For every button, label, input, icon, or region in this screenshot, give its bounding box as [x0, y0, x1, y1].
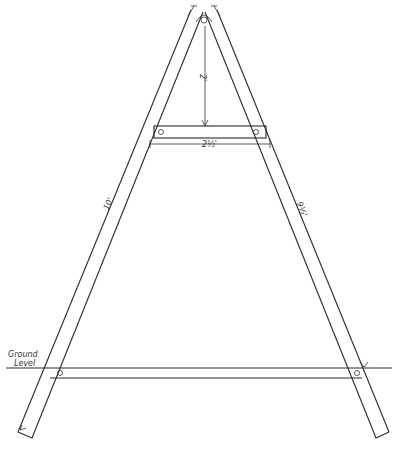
- left-leg: [18, 10, 203, 438]
- ground-label: Ground: [8, 350, 39, 359]
- drop-label: 2': [198, 74, 207, 81]
- lower-crossbar: [50, 371, 362, 379]
- drop-dimension: 2': [198, 26, 208, 126]
- top-bolt: [201, 17, 207, 23]
- right-leg-label: 9½': [295, 200, 309, 217]
- crossbar-width-label: 2½': [202, 140, 217, 149]
- a-frame-diagram: 2' 2½' 10' 9½' Ground Level: [0, 0, 403, 450]
- left-leg-label: 10': [102, 196, 115, 211]
- top-arrows: [188, 6, 220, 16]
- right-leg: [205, 10, 389, 438]
- level-label: Level: [14, 359, 36, 368]
